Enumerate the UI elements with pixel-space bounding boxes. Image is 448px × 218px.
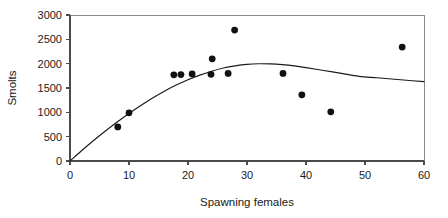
x-tick-label: 20	[182, 169, 194, 181]
data-point	[225, 70, 232, 77]
data-point	[170, 71, 177, 78]
data-point	[208, 71, 215, 78]
plot-axes	[70, 15, 424, 161]
fitted-curve	[70, 64, 424, 161]
data-point	[399, 44, 406, 51]
data-point	[327, 108, 334, 115]
y-tick-label: 1500	[38, 82, 62, 94]
y-tick-label: 0	[56, 155, 62, 167]
data-points-group	[114, 27, 405, 131]
scatter-plot: 050010001500200025003000 0102030405060 S…	[0, 0, 448, 218]
y-tick-label: 3000	[38, 9, 62, 21]
y-tick-label: 500	[44, 131, 62, 143]
data-point	[189, 70, 196, 77]
x-tick-label: 0	[67, 169, 73, 181]
data-point	[114, 124, 121, 131]
x-tick-label: 10	[123, 169, 135, 181]
data-point	[298, 91, 305, 98]
data-point	[231, 27, 238, 34]
y-axis-title: Smolts	[6, 70, 18, 105]
x-axis-title: Spawning females	[200, 196, 294, 208]
plot-frame	[70, 15, 424, 161]
x-tick-label: 30	[241, 169, 253, 181]
y-tick-label: 2500	[38, 33, 62, 45]
x-tick-label: 60	[418, 169, 430, 181]
chart-figure: 050010001500200025003000 0102030405060 S…	[0, 0, 448, 218]
x-axis-ticks: 0102030405060	[67, 161, 430, 181]
data-point	[178, 71, 185, 78]
data-point	[280, 70, 287, 77]
x-tick-label: 40	[300, 169, 312, 181]
y-tick-label: 1000	[38, 106, 62, 118]
x-tick-label: 50	[359, 169, 371, 181]
data-point	[126, 109, 133, 116]
y-tick-label: 2000	[38, 58, 62, 70]
y-axis-ticks: 050010001500200025003000	[38, 9, 70, 167]
data-point	[209, 55, 216, 62]
